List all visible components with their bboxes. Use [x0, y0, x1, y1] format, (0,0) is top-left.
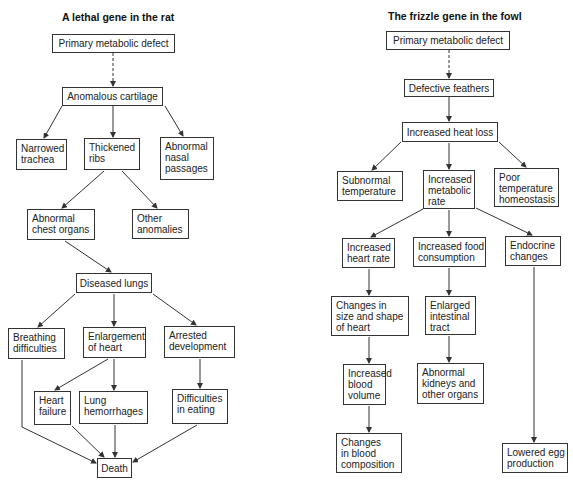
node-f-bloodvol: Increasedbloodvolume: [343, 364, 386, 405]
node-label-line: intestinal: [430, 311, 471, 322]
node-label-line: development: [169, 341, 230, 352]
arrow-connector: [65, 241, 111, 272]
node-label-line: Changes: [341, 437, 397, 448]
diagram-canvas: A lethal gene in the rat The frizzle gen…: [0, 0, 573, 482]
node-label-line: Poor: [499, 172, 554, 183]
node-r-lungs: Diseased lungs: [76, 273, 152, 293]
node-label-line: Diseased lungs: [80, 278, 148, 289]
arrow-connector: [44, 106, 62, 138]
node-label-line: Narrowed: [21, 143, 62, 154]
node-label-line: other organs: [422, 389, 479, 400]
node-label-line: Abnormal: [165, 141, 209, 152]
node-label-line: temperature: [342, 186, 398, 197]
arrow-connector: [55, 359, 108, 390]
node-r-eating: Difficultiesin eating: [172, 389, 228, 424]
node-label-line: of heart: [88, 342, 141, 353]
node-r-other: Otheranomalies: [132, 209, 189, 239]
node-label-line: failure: [39, 406, 66, 417]
node-f-intestinal: Enlargedintestinaltract: [425, 296, 476, 335]
node-label-line: difficulties: [13, 343, 60, 354]
node-f-heartrate: Increasedheart rate: [342, 238, 395, 268]
node-r-arrested: Arresteddevelopment: [164, 326, 235, 358]
node-label-line: metabolic: [428, 185, 470, 196]
node-label-line: temperature: [499, 183, 554, 194]
node-label-line: Increased: [428, 174, 470, 185]
node-f-heatloss: Increased heat loss: [402, 122, 498, 142]
node-label-line: Difficulties: [177, 393, 223, 404]
node-label-line: hemorrhages: [84, 406, 143, 417]
node-r-nasal: Abnormalnasalpassages: [160, 137, 214, 180]
node-label-line: Enlarged: [430, 300, 471, 311]
node-label-line: chest organs: [32, 224, 90, 235]
node-label-line: Increased: [347, 242, 390, 253]
arrow-connector: [476, 208, 532, 235]
arrow-connector: [72, 426, 104, 457]
node-label-line: Other: [137, 213, 184, 224]
node-f-food: Increased foodconsumption: [413, 237, 486, 267]
node-f-feathers: Defective feathers: [404, 79, 494, 97]
arrow-connector: [371, 209, 423, 237]
node-label-line: ribs: [89, 153, 135, 164]
node-label-line: Increased food: [418, 241, 481, 252]
node-r-primary: Primary metabolic defect: [52, 34, 175, 53]
node-label-line: Anomalous cartilage: [67, 91, 158, 102]
node-label-line: consumption: [418, 252, 481, 263]
node-label-line: Primary metabolic defect: [393, 35, 503, 46]
fowl-diagram-title: The frizzle gene in the fowl: [388, 10, 522, 22]
node-label-line: homeostasis: [499, 194, 554, 205]
node-label-line: nasal: [165, 152, 209, 163]
arrow-connector: [62, 171, 104, 208]
node-r-chest: Abnormalchest organs: [27, 209, 95, 240]
node-label-line: anomalies: [137, 224, 184, 235]
node-label-line: Arrested: [169, 330, 230, 341]
node-f-heartshape: Changes insize and shapeof heart: [331, 296, 409, 336]
node-label-line: Endocrine: [510, 240, 556, 251]
node-label-line: of heart: [336, 322, 404, 333]
node-label-line: Death: [101, 463, 128, 474]
node-r-cartilage: Anomalous cartilage: [62, 87, 163, 106]
arrow-connector: [153, 294, 196, 325]
arrow-connector: [133, 425, 197, 462]
node-label-line: changes: [510, 251, 556, 262]
node-label-line: blood: [348, 379, 381, 390]
node-f-subnormal: Subnormaltemperature: [337, 171, 403, 201]
node-label-line: Changes in: [336, 300, 404, 311]
node-label-line: Lowered egg: [507, 447, 563, 458]
node-f-metabolic: Increasedmetabolicrate: [423, 170, 475, 209]
node-label-line: Primary metabolic defect: [58, 38, 168, 49]
node-label-line: Enlargement: [88, 331, 141, 342]
node-label-line: Heart: [39, 395, 66, 406]
node-label-line: in blood: [341, 448, 397, 459]
node-label-line: volume: [348, 390, 381, 401]
node-r-enlarge: Enlargementof heart: [83, 327, 146, 358]
arrow-connector: [165, 106, 183, 136]
node-label-line: size and shape: [336, 311, 404, 322]
node-label-line: Lung: [84, 395, 143, 406]
node-label-line: Increased: [348, 368, 381, 379]
node-r-breathing: Breathingdifficulties: [8, 328, 65, 359]
node-label-line: Defective feathers: [409, 83, 490, 94]
arrow-connector: [22, 427, 96, 463]
node-r-death: Death: [97, 458, 132, 478]
node-label-line: Abnormal: [32, 213, 90, 224]
node-label-line: heart rate: [347, 253, 390, 264]
node-r-trachea: Narrowedtrachea: [16, 139, 67, 170]
arrow-connector: [372, 142, 401, 170]
node-label-line: Breathing: [13, 332, 60, 343]
node-label-line: rate: [428, 196, 470, 207]
node-label-line: Thickened: [89, 142, 135, 153]
node-label-line: in eating: [177, 404, 223, 415]
node-label-line: kidneys and: [422, 378, 479, 389]
node-label-line: Abnormal: [422, 367, 479, 378]
node-label-line: tract: [430, 322, 471, 333]
node-label-line: Increased heat loss: [407, 127, 494, 138]
arrow-connector: [122, 171, 157, 208]
node-label-line: composition: [341, 459, 397, 470]
node-label-line: Subnormal: [342, 175, 398, 186]
node-label-line: trachea: [21, 154, 62, 165]
node-f-primary: Primary metabolic defect: [386, 31, 510, 50]
node-r-heartfail: Heartfailure: [34, 391, 71, 425]
node-r-ribs: Thickenedribs: [84, 138, 140, 170]
rat-diagram-title: A lethal gene in the rat: [62, 11, 174, 23]
node-f-kidneys: Abnormalkidneys andother organs: [417, 363, 484, 404]
